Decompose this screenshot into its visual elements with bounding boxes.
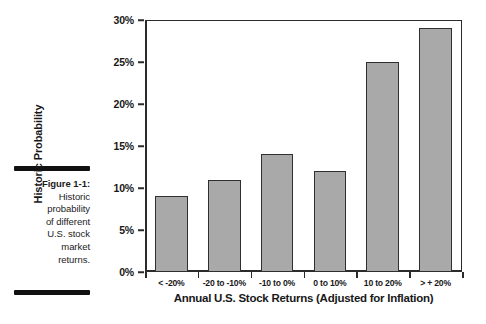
x-axis-tick-mark <box>145 272 147 278</box>
x-axis-tick-label: -10 to 0% <box>259 278 295 288</box>
y-axis-tick-mark <box>138 19 144 21</box>
bar <box>314 171 347 272</box>
x-axis-tick-mark <box>356 272 358 278</box>
bar <box>366 62 399 272</box>
bar-chart: Historic Probability 0%5%10%15%20%25%30%… <box>0 0 486 324</box>
x-axis-tick-label: -20 to -10% <box>203 278 246 288</box>
x-axis-tick-label: < -20% <box>158 278 184 288</box>
bar <box>155 196 188 272</box>
y-axis-tick-label: 10% <box>114 182 134 194</box>
x-axis-tick-label: > + 20% <box>420 278 451 288</box>
y-axis-tick-mark <box>138 103 144 105</box>
bar <box>419 28 452 272</box>
bars-layer <box>145 20 462 272</box>
y-axis-tick-mark <box>138 61 144 63</box>
y-axis-title: Historic Probability <box>32 89 44 219</box>
y-axis-tick-mark <box>138 229 144 231</box>
x-axis-tick-label: 10 to 20% <box>364 278 402 288</box>
y-axis-tick-mark <box>138 187 144 189</box>
bar <box>208 180 241 272</box>
y-axis-tick-mark <box>138 271 144 273</box>
y-axis-tick-label: 25% <box>114 56 134 68</box>
x-axis-tick-mark <box>198 272 200 278</box>
y-axis-tick-mark <box>138 145 144 147</box>
x-axis-title: Annual U.S. Stock Returns (Adjusted for … <box>145 292 462 304</box>
x-axis-tick-label: 0 to 10% <box>313 278 346 288</box>
x-axis-tick-mark <box>304 272 306 278</box>
figure-root: Figure 1-1: Historic probability of diff… <box>0 0 486 324</box>
y-axis-tick-label: 15% <box>114 140 134 152</box>
x-axis-tick-mark <box>251 272 253 278</box>
y-axis-tick-label: 0% <box>119 266 134 278</box>
x-axis-tick-mark <box>462 272 464 278</box>
x-axis-tick-mark <box>409 272 411 278</box>
bar <box>261 154 294 272</box>
y-axis-tick-labels: 0%5%10%15%20%25%30% <box>100 0 134 324</box>
y-axis-tick-label: 20% <box>114 98 134 110</box>
y-axis-tick-label: 5% <box>119 224 134 236</box>
y-axis-tick-label: 30% <box>114 14 134 26</box>
